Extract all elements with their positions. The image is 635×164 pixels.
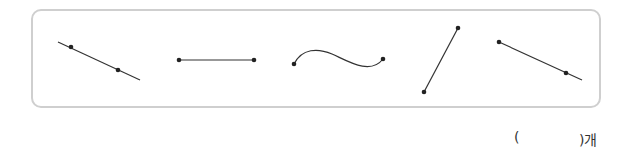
point [69, 45, 74, 50]
figures-canvas [0, 0, 635, 164]
point [422, 90, 427, 95]
figure-segment-slanted [424, 28, 458, 92]
figure-ray [499, 42, 582, 80]
point [252, 58, 257, 63]
answer-close-paren-unit: )개 [579, 129, 597, 149]
point [177, 58, 182, 63]
answer-open-paren: ( [514, 129, 519, 145]
point [497, 40, 502, 45]
point [116, 68, 121, 73]
point [456, 26, 461, 31]
figure-curve [294, 50, 383, 66]
point [564, 71, 569, 76]
point [381, 57, 386, 62]
point [292, 62, 297, 67]
